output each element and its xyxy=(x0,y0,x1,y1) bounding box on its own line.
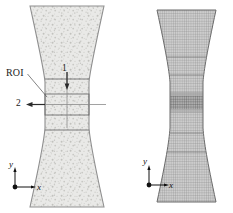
left-axis-y-label: y xyxy=(9,160,13,169)
left-axis-origin-dot xyxy=(13,185,18,190)
right-axis-x-label: x xyxy=(169,181,173,190)
mesh-dark-band xyxy=(140,96,233,109)
mesh-specimen-panel: y x xyxy=(140,0,233,213)
right-axis-y-label: y xyxy=(143,157,147,166)
mesh-specimen-graphic xyxy=(140,0,233,213)
left-axis-x-label: x xyxy=(37,183,41,192)
figure-container: ROI 1 2 y x xyxy=(0,0,233,213)
right-axis-y-arrowhead xyxy=(147,165,150,170)
right-axis-origin-dot xyxy=(147,183,152,188)
speckle-specimen-panel: ROI 1 2 y x xyxy=(0,0,140,213)
speckle-specimen-graphic xyxy=(0,0,140,213)
mesh-body xyxy=(140,0,233,213)
roi-label: ROI xyxy=(6,68,24,78)
direction-2-label: 2 xyxy=(16,99,21,109)
direction-2-arrowhead xyxy=(26,102,33,107)
left-axis-triad xyxy=(13,167,36,189)
direction-1-label: 1 xyxy=(62,64,67,74)
left-axis-y-arrowhead xyxy=(13,167,16,172)
specimen-body xyxy=(0,0,140,213)
